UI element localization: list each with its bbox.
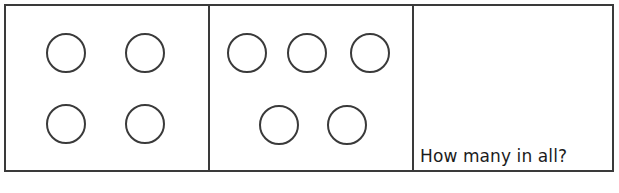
worksheet-frame: How many in all? [4,4,614,172]
panel-second-addend[interactable] [210,6,414,170]
counting-circle[interactable] [125,33,165,73]
question-prompt: How many in all? [420,146,567,166]
panel-first-addend[interactable] [6,6,210,170]
panel-answer[interactable]: How many in all? [414,6,612,170]
counting-circle[interactable] [227,33,267,73]
counting-circle[interactable] [327,105,367,145]
counting-circle[interactable] [125,104,165,144]
counting-circle[interactable] [46,33,86,73]
counting-circle[interactable] [287,33,327,73]
counting-worksheet: How many in all? [0,0,619,193]
counting-circle[interactable] [350,33,390,73]
counting-circle[interactable] [46,104,86,144]
counting-circle[interactable] [259,105,299,145]
